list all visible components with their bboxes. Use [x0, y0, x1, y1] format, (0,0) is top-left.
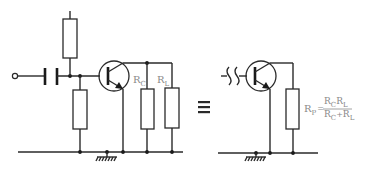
resistor-rc	[141, 89, 154, 129]
transistor-right	[246, 61, 276, 91]
label-rc: RC	[133, 74, 146, 88]
bias-resistor-top	[63, 19, 77, 58]
rp-formula: RP= RCRL RC+RL	[304, 96, 355, 122]
circuit-diagram: RC RL	[0, 0, 367, 174]
coupling-capacitor	[45, 68, 57, 85]
svg-text:RP=: RP=	[304, 103, 324, 117]
transistor-left	[99, 61, 129, 91]
svg-text:RC+RL: RC+RL	[324, 109, 355, 122]
left-circuit: RC RL	[12, 11, 183, 161]
resistor-rp	[286, 89, 299, 129]
bias-resistor-bottom	[73, 90, 87, 129]
label-rl: RL	[157, 74, 170, 88]
break-symbol	[221, 67, 247, 85]
input-terminal	[12, 73, 17, 78]
right-circuit: RP= RCRL RC+RL	[218, 61, 355, 161]
resistor-rl	[165, 88, 179, 128]
ground-symbol-right	[245, 153, 266, 161]
svg-text:RCRL: RCRL	[324, 96, 348, 109]
equivalence-symbol	[198, 101, 210, 113]
ground-symbol-left	[96, 152, 117, 161]
